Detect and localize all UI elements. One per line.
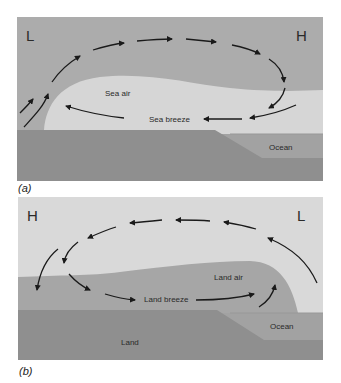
panel-a: L H Sea air Sea breeze Ocean (a) bbox=[17, 17, 323, 194]
ocean-label: Ocean bbox=[269, 143, 293, 152]
ocean-label: Ocean bbox=[270, 322, 294, 331]
land-label: Land bbox=[121, 338, 139, 347]
breeze-label: Land breeze bbox=[144, 295, 189, 304]
pressure-label-right: H bbox=[296, 27, 307, 44]
panel-b: H L Land air Land breeze Land Ocean (b) bbox=[18, 197, 323, 377]
sea-land-breeze-diagram: L H Sea air Sea breeze Ocean (a) bbox=[0, 0, 341, 383]
breeze-label: Sea breeze bbox=[149, 115, 190, 124]
caption-a: (a) bbox=[18, 182, 32, 194]
pressure-label-right: L bbox=[297, 207, 305, 224]
caption-b: (b) bbox=[19, 365, 33, 377]
pressure-label-left: H bbox=[27, 207, 38, 224]
air-mass-label: Sea air bbox=[105, 89, 131, 98]
air-mass-label: Land air bbox=[214, 273, 243, 282]
pressure-label-left: L bbox=[26, 27, 34, 44]
